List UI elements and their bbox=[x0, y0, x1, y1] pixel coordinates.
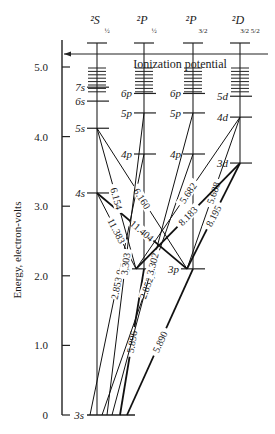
transition-wavelength-label: 8.195 bbox=[204, 203, 224, 228]
y-tick-label: 1.0 bbox=[34, 339, 48, 351]
energy-level-diagram: 01.02.03.04.05.0 Energy, electron-volts … bbox=[0, 0, 275, 434]
column-header-s: ²S bbox=[90, 13, 100, 27]
transition-wavelength-label: 3.302 bbox=[144, 252, 160, 277]
column-header-p3: ²P bbox=[186, 13, 198, 27]
energy-level-label: 4d bbox=[217, 111, 229, 123]
column-header-subscript: 3/2 bbox=[199, 27, 208, 35]
energy-level-label: 6p bbox=[170, 87, 182, 99]
energy-level-label: 3p bbox=[167, 263, 180, 275]
transition-wavelength-label: 6.154 bbox=[108, 186, 125, 211]
energy-level-label: 5d bbox=[217, 90, 229, 102]
column-header-subscript: 3/2 5/2 bbox=[240, 27, 260, 35]
column-header-p1: ²P bbox=[137, 13, 149, 27]
arrow-left-icon bbox=[64, 52, 71, 57]
energy-level-label: 6p bbox=[121, 87, 133, 99]
energy-level-label: 7s bbox=[75, 81, 85, 93]
energy-level-label: 4s bbox=[75, 187, 85, 199]
y-tick-label: 3.0 bbox=[34, 200, 48, 212]
column-headers: ²S½²P½²P3/2²D3/2 5/2 bbox=[87, 13, 260, 43]
ionization-label: Ionization potential bbox=[133, 57, 227, 71]
energy-level-label: 5p bbox=[170, 107, 182, 119]
y-tick-label: 4.0 bbox=[34, 131, 48, 143]
y-tick-label: 5.0 bbox=[34, 61, 48, 73]
y-axis-label: Energy, electron-volts bbox=[11, 202, 23, 299]
y-axis: 01.02.03.04.05.0 bbox=[34, 40, 70, 421]
y-tick-label: 0 bbox=[43, 409, 49, 421]
y-tick-label: 2.0 bbox=[34, 270, 48, 282]
energy-level-label: 5p bbox=[121, 107, 133, 119]
column-header-d: ²D bbox=[232, 13, 245, 27]
transition-wavelength-label: 3.303 bbox=[119, 252, 133, 276]
column-header-subscript: ½ bbox=[151, 27, 156, 35]
energy-level-label: 4p bbox=[121, 148, 133, 160]
y-axis-label-group: Energy, electron-volts bbox=[11, 202, 23, 299]
energy-level-label: 6s bbox=[75, 95, 85, 107]
transition-wavelength-label: 11.383 bbox=[105, 216, 127, 245]
energy-level-label: 3s bbox=[73, 409, 84, 421]
transition-wavelength-label: 5.890 bbox=[150, 329, 169, 354]
transition-wavelength-label: 11.404 bbox=[128, 218, 156, 244]
column-header-subscript: ½ bbox=[104, 27, 109, 35]
diagram-canvas: 01.02.03.04.05.0 Energy, electron-volts … bbox=[0, 0, 275, 434]
energy-level-label: 5s bbox=[75, 122, 85, 134]
energy-level-label: 4p bbox=[170, 148, 182, 160]
